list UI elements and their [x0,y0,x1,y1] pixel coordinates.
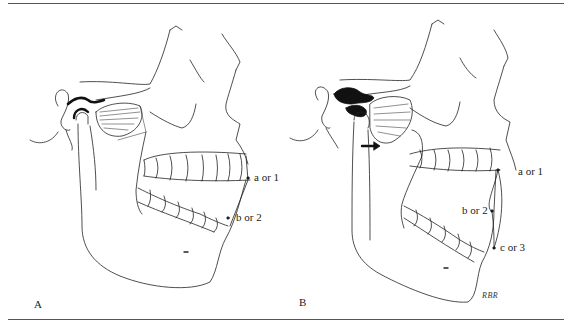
point-a-label-panel-b: a or 1 [518,166,543,177]
panel-label-b: B [299,296,306,308]
artist-signature: RBR [482,291,498,300]
panel-label-a: A [34,298,42,310]
point-b-label-panel-a: b or 2 [236,212,262,223]
point-c-label-panel-b: c or 3 [500,242,525,253]
panel-b-jaw-illustration [0,0,572,332]
point-a-label-panel-a: a or 1 [254,172,279,183]
point-b-label-panel-b: b or 2 [462,205,488,216]
